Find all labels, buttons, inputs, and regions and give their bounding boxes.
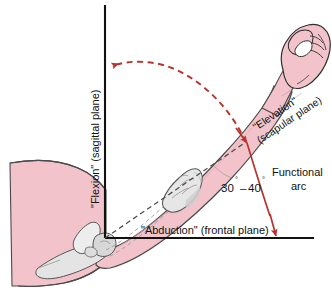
label-flexion: "Flexion" (sagittal plane) bbox=[89, 90, 101, 208]
angle-low-degree-icon: ° bbox=[235, 175, 238, 184]
flexion-range-dashed-arc bbox=[112, 62, 246, 142]
label-functional-line1: Functional bbox=[272, 166, 323, 178]
angle-dash: – bbox=[240, 182, 247, 194]
shoulder-motion-diagram: "Flexion" (sagittal plane) "Abduction" (… bbox=[0, 0, 332, 293]
anatomy-figure: "Flexion" (sagittal plane) "Abduction" (… bbox=[0, 0, 332, 293]
label-functional-line2: arc bbox=[291, 180, 307, 192]
closed-fist-hand bbox=[281, 24, 330, 88]
label-functional-arc: Functional arc bbox=[272, 166, 323, 192]
angle-low-value: 30 bbox=[221, 182, 234, 194]
label-abduction: "Abduction" (frontal plane) bbox=[141, 224, 269, 236]
angle-high-value: 40 bbox=[248, 182, 261, 194]
angle-high-degree-icon: ° bbox=[262, 175, 265, 184]
